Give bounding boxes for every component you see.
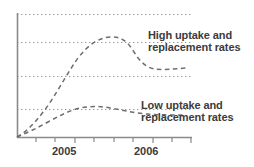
series-label-high-uptake: High uptake and replacement rates: [148, 30, 240, 53]
series-label-high-uptake-line1: High uptake and: [148, 30, 240, 42]
line-chart: High uptake and replacement rates Low up…: [0, 0, 254, 167]
series-label-low-uptake-line1: Low uptake and: [141, 100, 233, 112]
chart-plot-area: [0, 0, 254, 167]
x-axis-ticks: [36, 138, 191, 144]
x-axis-tick-label-2006: 2006: [134, 145, 158, 157]
series-label-high-uptake-line2: replacement rates: [148, 42, 240, 54]
series-label-low-uptake: Low uptake and replacement rates: [141, 100, 233, 123]
series-label-low-uptake-line2: replacement rates: [141, 112, 233, 124]
x-axis-tick-label-2005: 2005: [52, 145, 76, 157]
